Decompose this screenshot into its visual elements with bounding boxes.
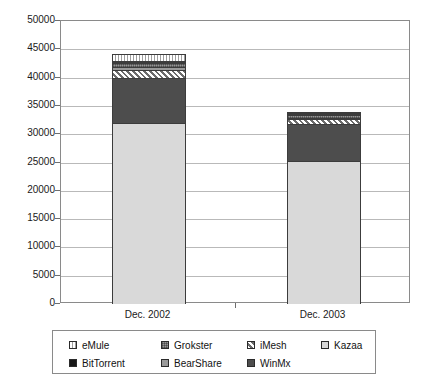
legend-swatch-bittorrent — [69, 359, 77, 367]
x-axis-tick — [235, 303, 236, 308]
y-axis-tick — [55, 303, 60, 304]
bar-segment-bittorrent — [287, 114, 361, 115]
y-axis-tick-label: 5000 — [3, 270, 55, 280]
bar-segment-winmx — [112, 78, 186, 123]
x-axis-tick-label: Dec. 2002 — [98, 309, 198, 321]
legend-label: Kazaa — [334, 340, 362, 351]
y-axis-tick-label: 30000 — [3, 128, 55, 138]
legend-label: Grokster — [174, 340, 212, 351]
bar-segment-winmx — [287, 124, 361, 161]
legend-item-grokster[interactable]: Grokster — [161, 340, 212, 351]
bar-2 — [287, 21, 361, 304]
legend-label: BearShare — [174, 358, 222, 369]
y-axis-tick-label: 45000 — [3, 43, 55, 53]
y-axis-tick-label: 25000 — [3, 157, 55, 167]
legend-swatch-grokster — [161, 341, 169, 349]
y-axis-tick-label: 10000 — [3, 241, 55, 251]
bar-1 — [112, 21, 186, 304]
legend-item-bittorrent[interactable]: BitTorrent — [69, 358, 125, 369]
bar-segment-kazaa — [112, 123, 186, 304]
chart-legend: eMuleGroksteriMeshKazaa BitTorrentBearSh… — [52, 330, 376, 374]
y-axis-tick-label: 50000 — [3, 15, 55, 25]
legend-swatch-kazaa — [321, 341, 329, 349]
y-axis-tick-label: 20000 — [3, 185, 55, 195]
bar-segment-bearshare — [112, 67, 186, 70]
legend-swatch-winmx — [247, 359, 255, 367]
stacked-bar-chart: 0500010000150002000025000300003500040000… — [0, 0, 425, 384]
y-axis-tick-label: 15000 — [3, 213, 55, 223]
legend-swatch-emule — [69, 341, 77, 349]
legend-item-bearshare[interactable]: BearShare — [161, 358, 222, 369]
bar-segment-bearshare — [287, 118, 361, 120]
bar-segment-bittorrent — [112, 62, 186, 63]
legend-label: eMule — [82, 340, 109, 351]
y-axis-tick-label: 0 — [3, 298, 55, 308]
x-axis-tick-label: Dec. 2003 — [273, 309, 373, 321]
bar-segment-imesh — [112, 70, 186, 78]
legend-label: BitTorrent — [82, 358, 125, 369]
bar-segment-kazaa — [287, 161, 361, 304]
legend-label: WinMx — [260, 358, 291, 369]
legend-swatch-imesh — [247, 341, 255, 349]
bar-segment-emule — [112, 54, 186, 62]
legend-item-kazaa[interactable]: Kazaa — [321, 340, 362, 351]
legend-row-1: eMuleGroksteriMeshKazaa — [61, 336, 369, 354]
bar-segment-imesh — [287, 119, 361, 124]
bar-segment-grokster — [287, 115, 361, 118]
plot-area — [60, 20, 410, 303]
legend-item-emule[interactable]: eMule — [69, 340, 109, 351]
legend-swatch-bearshare — [161, 359, 169, 367]
legend-label: iMesh — [260, 340, 287, 351]
y-axis-tick-label: 35000 — [3, 100, 55, 110]
bar-segment-grokster — [112, 63, 186, 67]
legend-item-winmx[interactable]: WinMx — [247, 358, 291, 369]
legend-row-2: BitTorrentBearShareWinMx — [61, 354, 369, 372]
legend-item-imesh[interactable]: iMesh — [247, 340, 287, 351]
bar-segment-emule — [287, 112, 361, 114]
y-axis-tick-label: 40000 — [3, 72, 55, 82]
